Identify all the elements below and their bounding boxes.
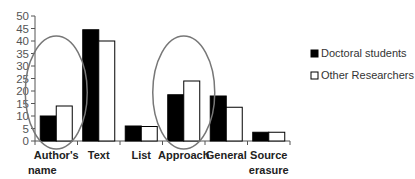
bar-other-researchers-general bbox=[226, 107, 242, 141]
legend-swatch bbox=[311, 50, 318, 57]
bar-other-researchers-list bbox=[141, 127, 157, 142]
y-tick-label: 5 bbox=[23, 123, 29, 135]
bar-other-researchers-source-erasure bbox=[269, 132, 285, 141]
legend: Doctoral studentsOther Researchers bbox=[311, 47, 414, 81]
legend-label: Doctoral students bbox=[321, 47, 407, 59]
category-label: Text bbox=[88, 149, 110, 161]
category-label: Approach bbox=[158, 149, 210, 161]
category-label: erasure bbox=[249, 164, 289, 176]
bar-other-researchers-author-s-name bbox=[56, 106, 72, 141]
bar-doctoral-students-text bbox=[83, 30, 99, 141]
category-label: Author's bbox=[34, 149, 79, 161]
y-tick-label: 0 bbox=[23, 135, 29, 147]
legend-label: Other Researchers bbox=[321, 69, 414, 81]
category-label: name bbox=[28, 164, 57, 176]
bar-doctoral-students-source-erasure bbox=[253, 132, 269, 141]
bar-doctoral-students-list bbox=[125, 126, 141, 141]
y-tick-label: 15 bbox=[16, 98, 29, 110]
y-tick-label: 45 bbox=[16, 23, 29, 35]
bar-other-researchers-approach bbox=[184, 81, 200, 141]
bar-other-researchers-text bbox=[99, 41, 115, 141]
category-label: Source bbox=[250, 149, 287, 161]
x-axis bbox=[35, 141, 290, 145]
y-tick-label: 20 bbox=[16, 85, 29, 97]
category-labels: Author'snameTextListApproachGeneralSourc… bbox=[28, 149, 289, 176]
y-tick-label: 35 bbox=[16, 48, 29, 60]
bar-doctoral-students-approach bbox=[168, 95, 184, 141]
legend-swatch bbox=[311, 72, 318, 79]
bar-chart: 05101520253035404550 Author'snameTextLis… bbox=[0, 0, 415, 179]
category-label: List bbox=[131, 149, 151, 161]
bars bbox=[40, 30, 285, 141]
y-tick-label: 40 bbox=[16, 35, 29, 47]
bar-doctoral-students-general bbox=[210, 96, 226, 141]
bar-doctoral-students-author-s-name bbox=[40, 116, 56, 141]
y-tick-label: 50 bbox=[16, 10, 29, 22]
category-label: General bbox=[206, 149, 247, 161]
